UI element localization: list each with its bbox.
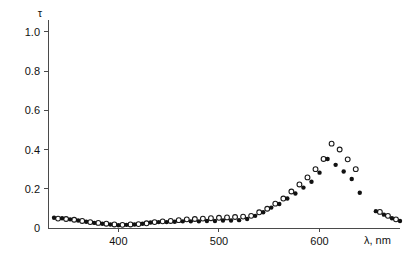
data-point xyxy=(140,221,144,225)
data-point xyxy=(281,196,286,201)
data-point xyxy=(293,191,297,195)
data-point xyxy=(132,222,136,226)
series-filled-circles xyxy=(52,157,402,228)
data-point xyxy=(144,221,149,226)
data-point xyxy=(100,221,104,225)
data-point xyxy=(398,219,402,223)
data-point xyxy=(329,141,334,146)
data-point xyxy=(241,214,246,219)
data-point xyxy=(394,217,399,222)
data-point xyxy=(189,219,193,223)
data-point xyxy=(273,201,278,206)
data-point xyxy=(152,220,157,225)
data-point xyxy=(229,218,233,222)
data-point xyxy=(112,222,117,227)
series-open-circles xyxy=(56,141,399,227)
data-point xyxy=(386,213,391,218)
data-point xyxy=(52,216,56,220)
data-point xyxy=(72,217,77,222)
data-point xyxy=(285,196,289,200)
data-point xyxy=(257,210,262,215)
data-point xyxy=(382,212,386,216)
data-point xyxy=(350,177,354,181)
data-point xyxy=(116,223,120,227)
data-point xyxy=(181,219,185,223)
data-point xyxy=(96,220,101,225)
data-point xyxy=(84,220,88,224)
data-point xyxy=(124,223,128,227)
data-point xyxy=(377,210,382,215)
data-point xyxy=(217,215,222,220)
data-point xyxy=(333,163,337,167)
y-tick-label: 0.8 xyxy=(25,65,40,77)
data-point xyxy=(136,222,141,227)
data-point xyxy=(80,219,85,224)
data-point xyxy=(277,202,281,206)
y-tick-group: 00.20.40.60.81.0 xyxy=(25,26,48,234)
data-point xyxy=(164,220,168,224)
plot-area: 00.20.40.60.81.0 400500600 τ λ, nm xyxy=(0,0,407,261)
data-point xyxy=(76,218,80,222)
data-point xyxy=(297,182,302,187)
transmittance-spectrum-chart: 00.20.40.60.81.0 400500600 τ λ, nm xyxy=(0,0,407,261)
data-point xyxy=(325,157,329,161)
data-point xyxy=(88,220,93,225)
data-point xyxy=(168,219,173,224)
data-point xyxy=(374,209,378,213)
data-point xyxy=(209,216,214,221)
data-point xyxy=(261,210,265,214)
data-point xyxy=(68,217,72,221)
data-point xyxy=(156,220,160,224)
data-point xyxy=(108,222,112,226)
y-tick-label: 0.6 xyxy=(25,104,40,116)
data-point xyxy=(317,170,321,174)
data-point xyxy=(249,213,254,218)
y-tick-label: 1.0 xyxy=(25,26,40,38)
data-point xyxy=(341,169,345,173)
data-point xyxy=(184,217,189,222)
data-point xyxy=(60,216,64,220)
data-point xyxy=(213,219,217,223)
x-tick-label: 600 xyxy=(310,235,328,247)
x-tick-label: 400 xyxy=(109,235,127,247)
data-point xyxy=(337,147,342,152)
data-point xyxy=(200,216,205,221)
data-point xyxy=(321,157,326,162)
data-point xyxy=(120,222,125,227)
data-point xyxy=(173,220,177,224)
x-axis-title: λ, nm xyxy=(364,234,391,246)
data-point xyxy=(237,218,241,222)
data-point xyxy=(305,175,310,180)
data-point xyxy=(205,219,209,223)
data-point xyxy=(313,167,318,172)
y-tick-label: 0.2 xyxy=(25,183,40,195)
data-point xyxy=(301,185,305,189)
data-point xyxy=(233,215,238,220)
x-tick-group: 400500600 xyxy=(109,228,329,247)
x-tick-label: 500 xyxy=(210,235,228,247)
axes-group xyxy=(48,20,400,228)
y-tick-label: 0.4 xyxy=(25,144,40,156)
data-point xyxy=(221,218,225,222)
data-point xyxy=(148,220,152,224)
data-point xyxy=(345,157,350,162)
data-point xyxy=(225,215,230,220)
data-point xyxy=(64,217,69,222)
data-point xyxy=(197,219,201,223)
data-point xyxy=(176,218,181,223)
data-point xyxy=(269,205,273,209)
data-point xyxy=(358,190,362,194)
data-point xyxy=(265,206,270,211)
data-point xyxy=(309,179,313,183)
data-point xyxy=(353,167,358,172)
data-point xyxy=(192,217,197,222)
y-axis-title: τ xyxy=(38,7,43,19)
data-point xyxy=(390,216,394,220)
data-point xyxy=(160,219,165,224)
data-point xyxy=(92,221,96,225)
data-point xyxy=(289,189,294,194)
data-point xyxy=(56,216,61,221)
y-tick-label: 0 xyxy=(34,222,40,234)
data-point xyxy=(253,214,257,218)
data-point xyxy=(245,217,249,221)
